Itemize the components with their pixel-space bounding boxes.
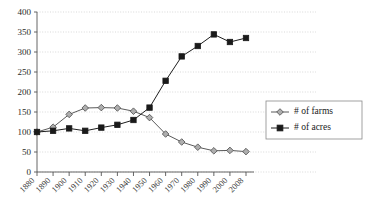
x-tick-label: 1990	[194, 175, 213, 194]
data-point-acres	[99, 125, 104, 130]
data-point-farms	[227, 147, 234, 154]
data-point-acres	[211, 32, 216, 37]
data-point-farms	[243, 148, 250, 155]
y-tick-label: 200	[18, 87, 32, 97]
y-axis: 050100150200250300350400	[18, 7, 38, 177]
data-point-farms	[98, 104, 105, 111]
x-tick-label: 1950	[130, 175, 149, 194]
data-point-acres	[131, 117, 136, 122]
legend-marker-square-icon	[277, 125, 283, 131]
x-tick-label: 1960	[146, 175, 165, 194]
x-tick-label: 1920	[82, 175, 101, 194]
data-point-acres	[227, 39, 232, 44]
x-tick-label: 2008	[226, 175, 245, 194]
data-point-farms	[82, 105, 89, 112]
data-point-acres	[195, 43, 200, 48]
data-point-acres	[115, 122, 120, 127]
series-markers	[34, 32, 250, 155]
x-axis: 1880189019001910192019301940195019601970…	[17, 172, 254, 194]
legend-label: # of farms	[294, 106, 333, 116]
data-point-farms	[114, 105, 121, 112]
data-point-acres	[163, 78, 168, 83]
x-tick-label: 2000	[210, 175, 229, 194]
data-point-acres	[34, 129, 39, 134]
data-point-acres	[179, 54, 184, 59]
y-tick-label: 300	[18, 47, 32, 57]
data-point-farms	[178, 139, 185, 146]
data-point-farms	[211, 148, 218, 155]
chart-canvas: 050100150200250300350400 188018901900191…	[0, 0, 368, 215]
x-tick-label: 1970	[162, 175, 181, 194]
y-tick-label: 250	[18, 67, 32, 77]
line-chart: 050100150200250300350400 188018901900191…	[0, 0, 368, 215]
data-point-acres	[83, 128, 88, 133]
x-tick-label: 1940	[114, 175, 133, 194]
data-point-acres	[147, 105, 152, 110]
x-tick-label: 1980	[178, 175, 197, 194]
y-tick-label: 100	[18, 127, 32, 137]
x-tick-label: 1930	[98, 175, 117, 194]
x-tick-label: 1880	[17, 175, 36, 194]
x-tick-label: 1910	[66, 175, 85, 194]
y-tick-label: 50	[22, 147, 32, 157]
y-tick-label: 350	[18, 27, 32, 37]
y-tick-label: 400	[18, 7, 32, 17]
x-tick-label: 1900	[49, 175, 68, 194]
data-point-acres	[66, 126, 71, 131]
data-point-acres	[243, 35, 248, 40]
legend-label: # of acres	[294, 122, 331, 132]
x-tick-label: 1890	[33, 175, 52, 194]
data-point-farms	[194, 144, 201, 151]
gridlines	[37, 12, 316, 172]
data-point-farms	[130, 108, 137, 115]
chart-legend: # of farms# of acres	[266, 101, 362, 139]
data-point-acres	[50, 128, 55, 133]
y-tick-label: 150	[18, 107, 32, 117]
